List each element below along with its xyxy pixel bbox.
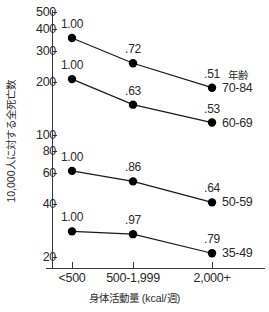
- data-point-label: .72: [125, 42, 141, 56]
- legend-title: 年齢: [228, 66, 248, 81]
- data-point-marker: [208, 83, 216, 91]
- data-point-label: .97: [125, 213, 141, 227]
- y-axis-title: 10,000人に対する全死亡数: [3, 27, 18, 257]
- series-label-60-69: 60-69: [222, 116, 252, 130]
- data-point-marker: [129, 59, 137, 67]
- data-point-label: .51: [204, 67, 220, 81]
- data-point-marker: [129, 177, 137, 185]
- data-point-label: 1.00: [61, 58, 83, 72]
- series-label-70-84: 70-84: [222, 81, 252, 95]
- x-axis-title: 身体活動量 (kcal/週): [0, 290, 269, 305]
- series-line: [72, 79, 212, 122]
- data-point-marker: [68, 34, 76, 42]
- data-point-label: 1.00: [61, 150, 83, 164]
- data-point-label: 1.00: [61, 17, 83, 31]
- data-point-marker: [208, 118, 216, 126]
- data-point-label: .64: [204, 181, 220, 195]
- data-point-marker: [68, 167, 76, 175]
- series-line: [72, 171, 212, 202]
- series-line: [72, 231, 212, 253]
- series-label-50-59: 50-59: [222, 195, 252, 209]
- mortality-activity-chart: 50040030020010080604020 <500500-1,9992,0…: [0, 0, 269, 312]
- data-point-marker: [208, 249, 216, 257]
- data-point-label: .63: [125, 84, 141, 98]
- data-point-label: .79: [204, 232, 220, 246]
- data-point-marker: [68, 227, 76, 235]
- data-point-marker: [129, 100, 137, 108]
- data-point-label: 1.00: [61, 210, 83, 224]
- series-label-35-49: 35-49: [222, 246, 252, 260]
- data-point-marker: [68, 75, 76, 83]
- data-point-label: .86: [125, 160, 141, 174]
- data-point-label: .53: [204, 102, 220, 116]
- data-point-marker: [129, 230, 137, 238]
- data-point-marker: [208, 198, 216, 206]
- series-line: [72, 38, 212, 88]
